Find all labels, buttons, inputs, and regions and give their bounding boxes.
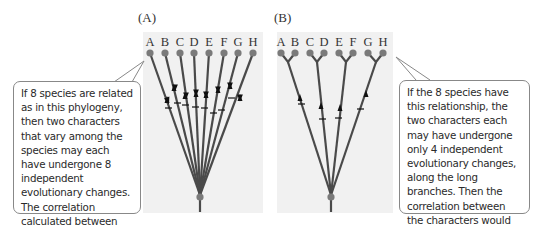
svg-text:B: B xyxy=(291,35,299,49)
panel-b-root-node xyxy=(327,193,334,200)
callout-b: If the 8 species have this relationship,… xyxy=(399,80,530,214)
svg-text:E: E xyxy=(205,35,213,49)
svg-text:C: C xyxy=(306,35,314,49)
callout-a: If 8 species are related as in this phyl… xyxy=(13,81,141,214)
svg-text:G: G xyxy=(233,35,242,49)
callout-b-pointer xyxy=(396,57,430,80)
svg-text:C: C xyxy=(176,35,184,49)
panel-a-root-node xyxy=(196,193,203,200)
svg-text:D: D xyxy=(189,35,198,49)
svg-text:E: E xyxy=(335,35,343,49)
svg-text:G: G xyxy=(363,35,372,49)
svg-text:F: F xyxy=(350,35,357,49)
svg-text:H: H xyxy=(248,35,257,49)
svg-text:A: A xyxy=(145,35,154,49)
svg-text:A: A xyxy=(276,35,285,49)
svg-text:F: F xyxy=(221,35,228,49)
svg-text:D: D xyxy=(319,35,328,49)
callout-a-pointer xyxy=(114,61,144,82)
svg-text:H: H xyxy=(378,35,387,49)
panel-a-label: (A) xyxy=(138,10,156,26)
svg-text:B: B xyxy=(161,35,169,49)
panel-b-label: (B) xyxy=(274,10,291,26)
